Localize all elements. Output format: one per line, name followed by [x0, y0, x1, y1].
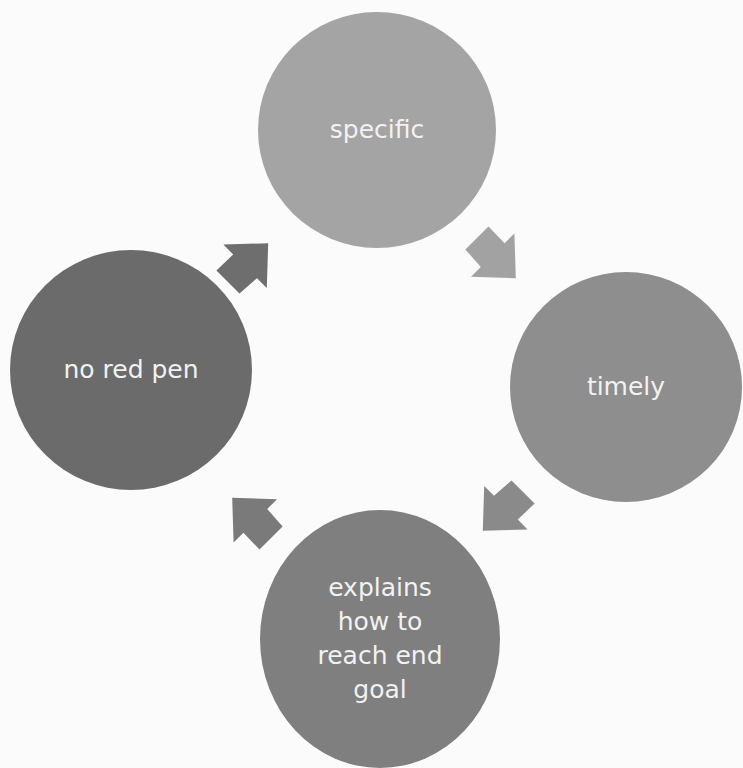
node-specific-label: specific — [330, 113, 424, 147]
arrow-up-left-icon — [221, 488, 291, 558]
node-end-goal-label: explains how to reach end goal — [317, 571, 442, 707]
node-timely: timely — [510, 272, 742, 502]
arrow-down-right-icon — [457, 218, 527, 288]
arrow-up-right-icon — [208, 232, 278, 302]
arrow-down-left-icon — [473, 472, 543, 542]
node-end-goal: explains how to reach end goal — [260, 510, 500, 768]
node-specific: specific — [258, 12, 496, 248]
node-timely-label: timely — [587, 370, 665, 404]
node-no-red-pen-label: no red pen — [63, 353, 198, 387]
